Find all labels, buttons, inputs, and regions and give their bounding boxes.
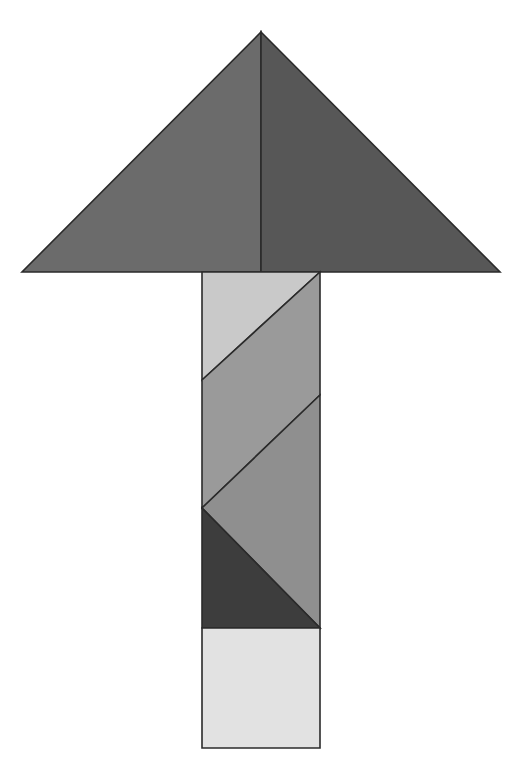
tangram-figure-root: Tangram Arrow Figure Seven-piece tangram… [0, 0, 528, 773]
tangram-canvas: Tangram Arrow Figure Seven-piece tangram… [0, 0, 528, 773]
base-square[interactable] [202, 628, 320, 748]
